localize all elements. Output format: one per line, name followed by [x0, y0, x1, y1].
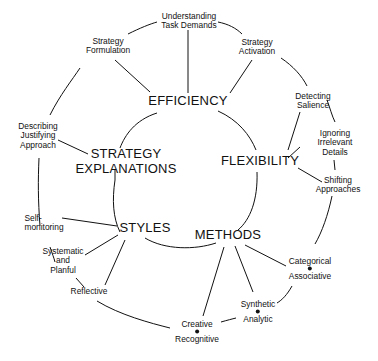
node-shifting-approaches: Shifting Approaches [316, 176, 361, 195]
strategy-explanations-line1: STRATEGY [75, 147, 176, 162]
strategy-explanations-line2: EXPLANATIONS [75, 162, 176, 177]
node-categorical-associative: Categorical Associative [289, 257, 331, 282]
node-describing-justifying-approach: Describing Justifying Approach [18, 122, 58, 150]
synthetic-line1: Synthetic [241, 300, 275, 309]
categorical-line2: Associative [289, 272, 331, 281]
systematic-line3: Planful [43, 266, 84, 275]
concept-methods: METHODS [195, 228, 261, 243]
node-detecting-salience: Detecting Salience [295, 92, 330, 111]
selfmon-line2: monitoring [24, 223, 63, 232]
node-strategy-activation: Strategy Activation [239, 38, 275, 57]
node-systematic-and-planful: Systematic and Planful [43, 247, 84, 275]
node-synthetic-analytic: Synthetic Analytic [241, 300, 275, 325]
shifting-line2: Approaches [316, 185, 361, 194]
node-self-monitoring: Self- monitoring [24, 214, 63, 233]
understanding-line2: Task Demands [161, 21, 216, 30]
concept-flexibility: FLEXIBILITY [221, 154, 299, 169]
describing-line3: Approach [18, 141, 58, 150]
ignoring-line3: Details [318, 148, 353, 157]
node-reflective: Reflective [71, 287, 108, 296]
strategy-diagram: EFFICIENCY FLEXIBILITY METHODS STYLES ST… [0, 0, 378, 361]
node-ignoring-irrelevant-details: Ignoring Irrelevant Details [318, 129, 353, 157]
node-creative-recognitive: Creative Recognitive [175, 320, 219, 345]
creative-line2: Recognitive [175, 335, 219, 344]
concept-styles: STYLES [119, 221, 170, 236]
creative-line1: Creative [175, 320, 219, 329]
concept-strategy-explanations: STRATEGY EXPLANATIONS [75, 147, 176, 176]
node-strategy-formulation: Strategy Formulation [86, 37, 130, 56]
activation-line2: Activation [239, 47, 275, 56]
salience-line2: Salience [295, 101, 330, 110]
synthetic-line2: Analytic [241, 315, 275, 324]
reflective-line1: Reflective [71, 287, 108, 296]
concept-efficiency: EFFICIENCY [148, 94, 227, 109]
formulation-line2: Formulation [86, 46, 130, 55]
node-understanding-task-demands: Understanding Task Demands [161, 12, 216, 31]
categorical-line1: Categorical [289, 257, 331, 266]
